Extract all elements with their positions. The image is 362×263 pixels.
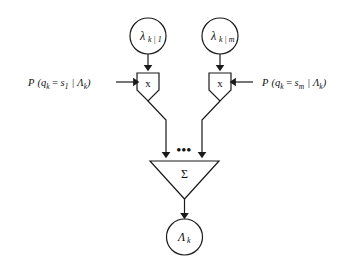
prob-right-bar: |: [307, 77, 310, 88]
output-symbol: Λ: [177, 230, 186, 244]
input-subscript-left: k | 1: [148, 35, 162, 44]
prob-right-close: ): [322, 77, 327, 89]
prob-left-state-sub: 1: [65, 82, 69, 91]
edge-multiplier-left-to-summation: [148, 101, 166, 155]
input-symbol-left: λ: [139, 29, 145, 43]
prob-right-text: P(qk=sm|Λk): [261, 77, 327, 91]
summation-node: Σ: [150, 161, 219, 199]
weight-label-prob-s1: P(qk=s1|Λk): [27, 77, 91, 91]
prob-right-equals: =: [286, 77, 293, 88]
input-subscript-right: k | m: [219, 35, 235, 44]
prob-left-bar: |: [71, 77, 74, 88]
prob-right-state-sub: m: [299, 82, 305, 91]
multiplier-right-label: x: [217, 77, 223, 89]
prob-left-text: P(qk=s1|Λk): [27, 77, 91, 91]
weight-label-prob-sm: P(qk=sm|Λk): [261, 77, 327, 91]
multiplier-left: x: [137, 73, 159, 101]
edge-multiplier-right-to-summation: [202, 101, 220, 155]
flow-diagram-svg: λ k | 1 λ k | m x x P(qk=s: [0, 0, 362, 263]
multiplier-right: x: [209, 73, 231, 101]
prob-right-prefix: P: [261, 77, 269, 88]
prob-left-prefix: P: [27, 77, 35, 88]
prob-left-var-sub: k: [46, 82, 50, 91]
input-symbol-right: λ: [210, 29, 216, 43]
output-node-lambda-k: Λ k: [167, 219, 203, 255]
summation-label: Σ: [181, 167, 188, 181]
prob-left-equals: =: [52, 77, 59, 88]
input-node-lambda-k-1: λ k | 1: [130, 18, 166, 54]
multiplier-left-label: x: [145, 77, 151, 89]
ellipsis-indicator: •••: [176, 142, 191, 157]
diagram-canvas: λ k | 1 λ k | m x x P(qk=s: [0, 0, 362, 263]
input-node-lambda-k-m: λ k | m: [202, 18, 238, 54]
output-subscript: k: [187, 236, 191, 245]
prob-left-close: ): [86, 77, 91, 89]
prob-right-var-sub: k: [280, 82, 284, 91]
